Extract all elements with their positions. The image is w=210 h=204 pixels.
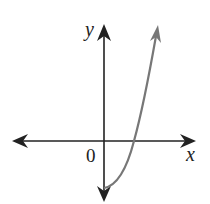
function-curve xyxy=(104,25,161,188)
y-axis xyxy=(97,24,111,202)
y-axis-label: y xyxy=(83,18,94,41)
graph-canvas: y x 0 xyxy=(0,0,210,204)
origin-label: 0 xyxy=(86,145,96,166)
graph-figure: y x 0 xyxy=(0,0,210,204)
x-axis-label: x xyxy=(185,143,195,165)
